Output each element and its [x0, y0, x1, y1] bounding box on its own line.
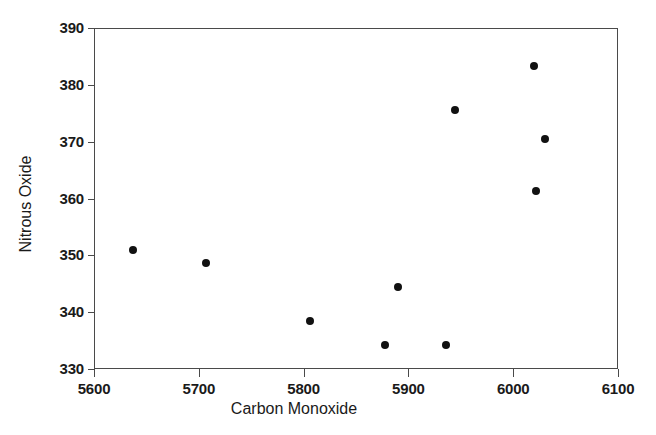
x-axis-tick [618, 369, 619, 377]
scatter-chart: 330340350360370380390 560057005800590060… [0, 0, 656, 435]
x-axis-tick-label-text: 5800 [287, 380, 320, 397]
x-axis-tick-label-text: 5600 [78, 380, 111, 397]
y-axis-tick [88, 85, 95, 86]
x-axis-tick-label-text: 5700 [183, 380, 216, 397]
y-axis-tick-label: 370 [34, 134, 84, 150]
y-axis-tick [88, 199, 95, 200]
y-axis-tick-label-text: 380 [38, 77, 84, 92]
x-axis-tick-label: 5800 [264, 380, 344, 398]
data-point [451, 106, 459, 114]
y-axis-tick [88, 142, 95, 143]
data-point [129, 246, 137, 254]
data-point [381, 341, 389, 349]
data-point [442, 341, 450, 349]
y-axis-tick-label: 380 [34, 77, 84, 93]
y-axis-tick-label: 350 [34, 247, 84, 263]
x-axis-tick [199, 369, 200, 377]
y-axis-tick-label: 360 [34, 191, 84, 207]
plot-area [94, 28, 618, 369]
x-axis-tick-label-text: 5900 [392, 380, 425, 397]
x-axis-tick-label: 6000 [473, 380, 553, 398]
y-axis-tick [88, 28, 95, 29]
x-axis-tick-label: 5700 [159, 380, 239, 398]
x-axis-tick [304, 369, 305, 377]
y-axis-tick-label-text: 340 [38, 304, 84, 319]
y-axis-tick [88, 255, 95, 256]
y-axis-tick-label-text: 330 [38, 361, 84, 376]
x-axis-tick-label-text: 6000 [497, 380, 530, 397]
x-axis-tick [94, 369, 95, 377]
y-axis-tick-label: 390 [34, 20, 84, 36]
x-axis-tick-label: 5600 [54, 380, 134, 398]
x-axis-tick-label: 5900 [368, 380, 448, 398]
y-axis-tick-label-text: 350 [38, 247, 84, 262]
y-axis-tick [88, 312, 95, 313]
x-axis-tick [408, 369, 409, 377]
y-axis-tick-label-text: 360 [38, 191, 84, 206]
x-axis-title: Carbon Monoxide [94, 400, 494, 418]
y-axis-title: Nitrous Oxide [17, 104, 35, 304]
x-axis-tick-label-text: 6100 [602, 380, 635, 397]
y-axis-tick-label: 340 [34, 304, 84, 320]
data-point [530, 62, 538, 70]
y-axis-tick-label: 330 [34, 361, 84, 377]
x-axis-tick-label: 6100 [578, 380, 656, 398]
x-axis-tick [513, 369, 514, 377]
y-axis-tick-label-text: 370 [38, 134, 84, 149]
y-axis-tick-label-text: 390 [38, 20, 84, 35]
